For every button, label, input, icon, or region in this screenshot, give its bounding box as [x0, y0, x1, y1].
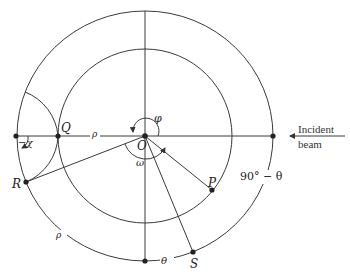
arc-QR-upper [25, 92, 58, 136]
label-90-minus-theta: 90° − θ [240, 171, 282, 182]
line-OR [26, 136, 145, 182]
line-OP [145, 136, 212, 190]
label-rho-arc: ρ [56, 231, 61, 240]
label-theta: θ [161, 256, 167, 266]
point-right-outer [270, 133, 275, 138]
label-P: P [208, 177, 216, 189]
incident-label-line1: Incident [298, 124, 334, 135]
diagram-canvas: Q O R P S φ ω −χ θ 90° − θ ρ ρ Incident … [0, 0, 350, 276]
label-R: R [12, 178, 21, 190]
label-S: S [190, 258, 198, 270]
point-R [23, 179, 28, 184]
point-O [142, 133, 148, 139]
label-omega: ω [136, 158, 144, 168]
label-Q: Q [61, 122, 71, 134]
point-S [190, 249, 195, 254]
label-rho-radius: ρ [92, 130, 97, 139]
incident-label-line2: beam [298, 139, 322, 150]
label-chi: −χ [18, 138, 32, 148]
label-phi: φ [154, 113, 162, 124]
line-OS [145, 136, 193, 252]
label-O: O [137, 140, 147, 152]
point-Q [55, 133, 60, 138]
point-bottom-outer [142, 258, 147, 263]
